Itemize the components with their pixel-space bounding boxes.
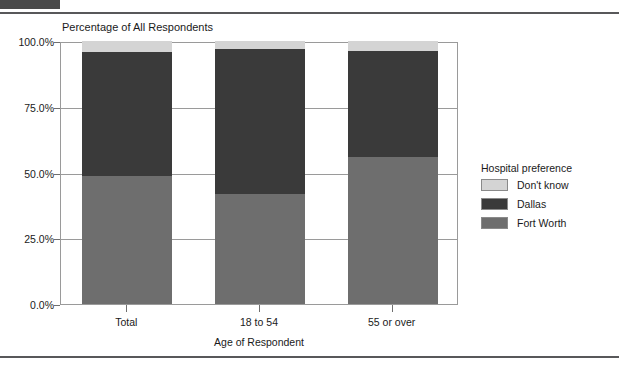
y-axis-ticks <box>0 42 60 305</box>
x-axis-tick-mark <box>259 305 260 312</box>
x-axis-tick-label: 18 to 54 <box>240 316 278 328</box>
bar-55-or-over[interactable] <box>348 41 438 304</box>
plot-area <box>60 42 458 305</box>
bar-segment-fort-worth[interactable] <box>348 157 438 304</box>
legend-swatch <box>481 179 508 191</box>
legend-swatch <box>481 217 508 229</box>
bottom-divider-rule <box>0 356 619 358</box>
bar-18-to-54[interactable] <box>215 41 305 304</box>
bar-segment-fort-worth[interactable] <box>215 194 305 304</box>
bar-segment-dallas[interactable] <box>82 52 172 177</box>
bar-segment-don-t-know[interactable] <box>215 41 305 49</box>
legend-item-don-t-know[interactable]: Don't know <box>481 179 611 191</box>
legend-item-fort-worth[interactable]: Fort Worth <box>481 217 611 229</box>
legend-swatch <box>481 198 508 210</box>
legend-label: Don't know <box>517 179 569 191</box>
x-axis-ticks <box>60 305 458 313</box>
legend-item-dallas[interactable]: Dallas <box>481 198 611 210</box>
bar-segment-fort-worth[interactable] <box>82 176 172 304</box>
header-tab-mark <box>0 0 60 9</box>
legend: Hospital preference Don't knowDallasFort… <box>481 162 611 236</box>
stacked-bar-chart: Percentage of All Respondents 0.0%25.0%5… <box>0 14 619 354</box>
x-axis-tick-label: Total <box>115 316 137 328</box>
x-axis-title: Age of Respondent <box>60 336 458 348</box>
x-axis-labels: Total18 to 5455 or over <box>60 316 458 332</box>
bar-segment-don-t-know[interactable] <box>82 41 172 52</box>
legend-title: Hospital preference <box>481 162 611 174</box>
x-axis-tick-mark <box>392 305 393 312</box>
bar-segment-dallas[interactable] <box>348 51 438 157</box>
x-axis-tick-label: 55 or over <box>368 316 415 328</box>
plot-title: Percentage of All Respondents <box>62 21 213 33</box>
bar-segment-dallas[interactable] <box>215 49 305 194</box>
legend-label: Fort Worth <box>517 217 566 229</box>
bar-total[interactable] <box>82 41 172 304</box>
legend-label: Dallas <box>517 198 546 210</box>
x-axis-tick-mark <box>126 305 127 312</box>
bar-segment-don-t-know[interactable] <box>348 41 438 51</box>
